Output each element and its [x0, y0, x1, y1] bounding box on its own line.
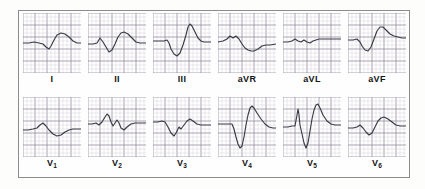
ecg-lead-cell-avf: aVF — [348, 11, 406, 95]
ecg-lead-label-v6: V6 — [348, 157, 406, 170]
ecg-lead-label-v3: V3 — [153, 157, 211, 170]
ecg-panel-avl — [283, 13, 341, 73]
ecg-lead-label-avr: aVR — [218, 73, 276, 85]
ecg-waveform-v5 — [283, 104, 341, 148]
ecg-grid-avl — [283, 13, 341, 73]
ecg-grid-v1 — [23, 97, 81, 157]
ecg-panel-v6 — [348, 97, 406, 157]
ecg-trace-svg-avr — [218, 13, 276, 73]
ecg-trace-svg-avf — [348, 13, 406, 73]
ecg-panel-avr — [218, 13, 276, 73]
ecg-trace-svg-avl — [283, 13, 341, 73]
ecg-lead-label-ii: II — [88, 73, 146, 85]
ecg-trace-svg-v1 — [23, 97, 81, 157]
ecg-waveform-v6 — [348, 117, 406, 135]
ecg-grid-v5 — [283, 97, 341, 157]
ecg-lead-label-v2: V2 — [88, 157, 146, 170]
ecg-panel-ii — [88, 13, 146, 73]
ecg-trace-svg-v5 — [283, 97, 341, 157]
ecg-panel-i — [23, 13, 81, 73]
ecg-lead-cell-v6: V6 — [348, 95, 406, 179]
ecg-trace-svg-v6 — [348, 97, 406, 157]
ecg-waveform-iii — [153, 24, 211, 56]
ecg-grid-v2 — [88, 97, 146, 157]
ecg-lead-cell-v1: V1 — [23, 95, 81, 179]
ecg-panel-v5 — [283, 97, 341, 157]
ecg-trace-svg-v3 — [153, 97, 211, 157]
ecg-lead-label-iii: III — [153, 73, 211, 85]
ecg-row-precordial-leads: V1V2V3V4V5V6 — [19, 95, 409, 179]
ecg-figure: IIIIIIaVRaVLaVF V1V2V3V4V5V6 — [0, 0, 425, 189]
ecg-trace-svg-v4 — [218, 97, 276, 157]
ecg-panel-v2 — [88, 97, 146, 157]
ecg-trace-svg-iii — [153, 13, 211, 73]
ecg-trace-svg-v2 — [88, 97, 146, 157]
ecg-lead-cell-iii: III — [153, 11, 211, 95]
ecg-lead-label-v1: V1 — [23, 157, 81, 170]
ecg-panel-v3 — [153, 97, 211, 157]
ecg-lead-cell-v3: V3 — [153, 95, 211, 179]
ecg-row-limb-leads: IIIIIIaVRaVLaVF — [19, 11, 409, 95]
ecg-waveform-avf — [348, 27, 406, 51]
ecg-grid-iii — [153, 13, 211, 73]
ecg-lead-label-v5: V5 — [283, 157, 341, 170]
ecg-lead-cell-v5: V5 — [283, 95, 341, 179]
ecg-waveform-v4 — [218, 106, 276, 148]
ecg-panel-iii — [153, 13, 211, 73]
ecg-trace-svg-ii — [88, 13, 146, 73]
ecg-grid-avf — [348, 13, 406, 73]
ecg-lead-cell-v2: V2 — [88, 95, 146, 179]
ecg-grid-v4 — [218, 97, 276, 157]
ecg-lead-label-v4: V4 — [218, 157, 276, 170]
ecg-lead-cell-avr: aVR — [218, 11, 276, 95]
ecg-grid-avr — [218, 13, 276, 73]
ecg-waveform-v3 — [153, 119, 211, 136]
ecg-trace-svg-i — [23, 13, 81, 73]
ecg-lead-label-i: I — [23, 73, 81, 85]
ecg-panel-avf — [348, 13, 406, 73]
ecg-waveform-v2 — [88, 114, 146, 130]
ecg-panel-v4 — [218, 97, 276, 157]
ecg-lead-cell-v4: V4 — [218, 95, 276, 179]
ecg-lead-cell-avl: aVL — [283, 11, 341, 95]
ecg-panel-v1 — [23, 97, 81, 157]
ecg-lead-cell-i: I — [23, 11, 81, 95]
ecg-lead-cell-ii: II — [88, 11, 146, 95]
ecg-lead-label-avf: aVF — [348, 73, 406, 85]
ecg-frame: IIIIIIaVRaVLaVF V1V2V3V4V5V6 — [18, 10, 410, 178]
ecg-lead-label-avl: aVL — [283, 73, 341, 85]
